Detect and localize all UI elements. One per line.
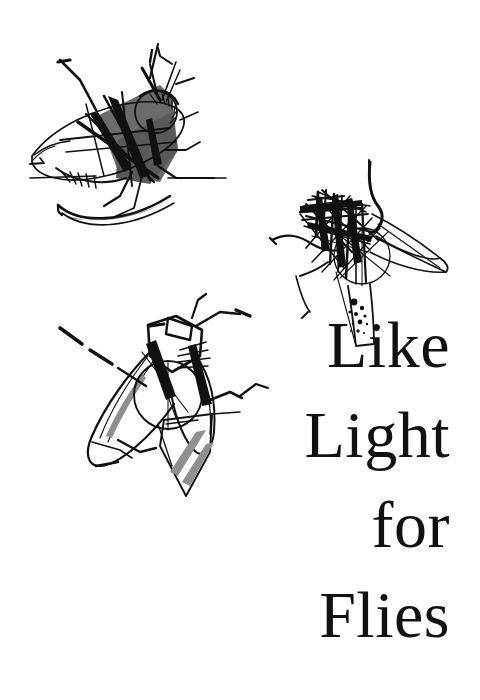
illustration-artboard	[0, 0, 480, 700]
leg-1-tip	[58, 60, 70, 62]
head-left-mark	[150, 324, 164, 326]
background	[0, 0, 480, 700]
poster-canvas: Like Light for Flies	[0, 0, 480, 700]
